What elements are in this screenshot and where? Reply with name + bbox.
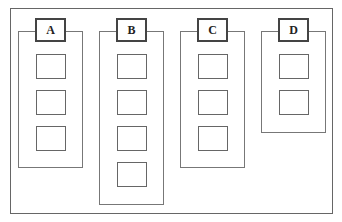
label-box-b: B [116,18,147,42]
item-box-c-1 [198,54,228,79]
item-box-a-1 [36,54,66,79]
item-box-c-3 [198,126,228,151]
item-box-b-4 [117,162,147,187]
label-a: A [46,23,55,38]
item-box-a-3 [36,126,66,151]
item-box-a-2 [36,90,66,115]
item-box-b-3 [117,126,147,151]
item-box-b-1 [117,54,147,79]
item-box-c-2 [198,90,228,115]
column-d [261,31,326,133]
item-box-d-1 [279,54,309,79]
label-box-d: D [278,18,309,42]
label-b: B [127,23,135,38]
item-box-d-2 [279,90,309,115]
item-box-b-2 [117,90,147,115]
label-box-c: C [197,18,228,42]
label-box-a: A [35,18,66,42]
label-d: D [289,23,298,38]
label-c: C [208,23,217,38]
